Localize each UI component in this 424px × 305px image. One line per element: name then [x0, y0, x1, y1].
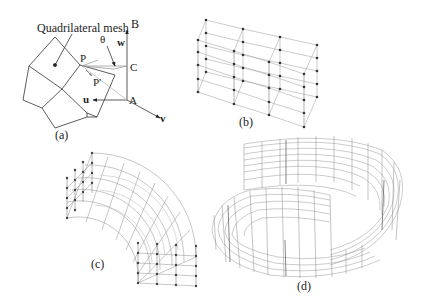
point-b-label: B: [131, 17, 139, 31]
axis-u-label: u: [83, 93, 89, 105]
point-a-label: A: [129, 94, 137, 106]
caption-c: (c): [91, 257, 104, 271]
panel-a-diagram: [23, 30, 160, 128]
mesh-label: Quadrilateral mesh: [37, 21, 129, 35]
point-c-label: C: [130, 61, 137, 73]
theta-label: θ: [100, 33, 105, 45]
panel-c-curved-lattice: [67, 153, 196, 286]
point-p-label: P: [80, 52, 86, 64]
caption-b: (b): [239, 115, 253, 129]
panel-d-spiral-lattice: [212, 136, 403, 278]
panel-b-lattice: [198, 20, 317, 127]
caption-a: (a): [55, 128, 68, 142]
caption-d: (d): [297, 279, 311, 293]
figure-canvas: Quadrilateral mesh B w θ P C P′ u A v (a…: [0, 0, 424, 305]
axis-v-label: v: [160, 112, 166, 124]
point-p-prime-label: P′: [93, 76, 102, 88]
axis-w-label: w: [117, 36, 125, 48]
